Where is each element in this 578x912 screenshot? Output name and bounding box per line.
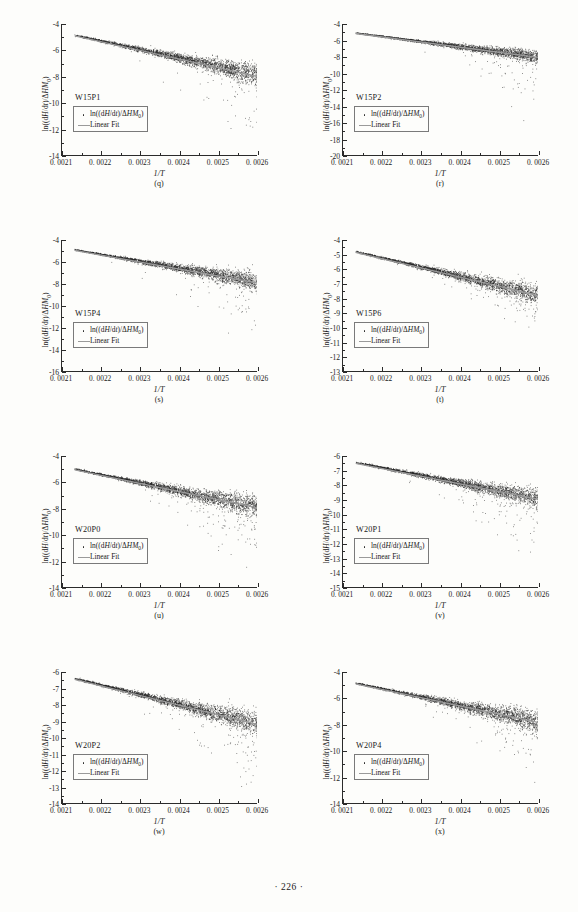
x-tick-label: 0. 0024 [449,374,471,383]
dot-marker-icon [77,326,90,335]
line-marker-icon [77,552,90,561]
x-tick-label: 0. 0022 [89,158,111,167]
panel-letter: (w) [61,827,257,836]
y-tick-label: -6 [53,258,59,267]
legend-label-scatter: ln((dH/dt)/ΔHM0) [371,757,424,768]
x-tick-label: 0. 0021 [50,590,72,599]
legend-label-fit: Linear Fit [90,120,119,129]
legend-label-scatter: ln((dH/dt)/ΔHM0) [371,325,424,336]
linear-fit-line [75,679,257,724]
y-tick-label: -4 [53,452,59,461]
y-tick-labels: -6-7-8-9-10-11-12-13-14-15 [314,456,340,588]
legend-label-fit: Linear Fit [371,336,400,345]
sample-label: W15P4 [75,309,101,318]
data-layer [342,456,538,588]
x-tick-label: 0. 0022 [89,590,111,599]
y-tick-label: -4 [53,236,59,245]
data-layer [61,456,257,588]
sample-label: W20P2 [75,741,101,750]
y-major-tick [343,588,347,589]
y-tick-labels: -4-6-8-10-12-14-16 [33,240,59,372]
x-tick-label: 0. 0021 [50,158,72,167]
y-major-tick [343,372,347,373]
y-tick-label: -4 [334,236,340,245]
panel-letter: (v) [342,611,538,620]
legend-label-fit: Linear Fit [90,768,119,777]
y-tick-label: -12 [49,767,59,776]
x-tick-label: 0. 0025 [207,806,229,815]
x-major-tick [258,799,259,803]
plot-area: ln((dH/dt)/ΔHM0)-6-7-8-9-10-11-12-13-14W… [21,666,276,838]
legend: ln((dH/dt)/ΔHM0)Linear Fit [354,754,429,780]
x-tick-label: 0. 0025 [488,158,510,167]
legend-item-fit: Linear Fit [358,768,424,777]
y-tick-label: -4 [53,20,59,29]
y-tick-label: -10 [49,734,59,743]
legend-label-fit: Linear Fit [371,768,400,777]
line-marker-icon [358,336,371,345]
x-tick-label: 0. 0023 [128,158,150,167]
legend-label-fit: Linear Fit [371,552,400,561]
legend-label-scatter: ln((dH/dt)/ΔHM0) [90,541,143,552]
legend: ln((dH/dt)/ΔHM0)Linear Fit [73,538,148,564]
x-tick-label: 0. 0025 [207,158,229,167]
y-tick-label: -5 [334,250,340,259]
x-tick-label: 0. 0022 [370,590,392,599]
x-tick-label: 0. 0023 [128,806,150,815]
legend-label-scatter: ln((dH/dt)/ΔHM0) [371,109,424,120]
y-tick-label: -14 [330,102,340,111]
panel-letter: (s) [61,395,257,404]
x-axis-label: 1/T [61,169,257,178]
y-tick-label: -7 [53,684,59,693]
legend-item-scatter: ln((dH/dt)/ΔHM0) [77,325,143,336]
sample-label: W15P6 [356,309,382,318]
plot-area: ln((dH/dt)/ΔHM0)-4-6-8-10-12-14W15P1ln((… [21,18,276,190]
plot-area: ln((dH/dt)/ΔHM0)-6-7-8-9-10-11-12-13-14-… [302,450,557,622]
y-tick-label: -12 [330,773,340,782]
line-marker-icon [358,552,371,561]
y-tick-label: -14 [49,346,59,355]
line-marker-icon [77,336,90,345]
x-major-tick [539,151,540,155]
y-tick-label: -13 [49,783,59,792]
data-layer [342,24,538,156]
y-major-tick [343,804,347,805]
dot-marker-icon [77,542,90,551]
x-tick-label: 0. 0026 [527,806,549,815]
x-major-tick [258,367,259,371]
sample-label: W20P4 [356,741,382,750]
y-tick-labels: -4-6-8-10-12-14 [314,672,340,804]
y-tick-label: -8 [53,280,59,289]
x-tick-label: 0. 0025 [207,590,229,599]
legend-item-scatter: ln((dH/dt)/ΔHM0) [358,541,424,552]
legend: ln((dH/dt)/ΔHM0)Linear Fit [73,106,148,132]
y-tick-labels: -6-7-8-9-10-11-12-13-14 [33,672,59,804]
chart-panel: ln((dH/dt)/ΔHM0)-4-5-6-7-8-9-10-11-12-13… [289,234,570,450]
x-tick-label: 0. 0025 [207,374,229,383]
x-major-tick [539,583,540,587]
panel-letter: (u) [61,611,257,620]
y-tick-label: -11 [330,525,340,534]
y-tick-label: -16 [330,119,340,128]
y-tick-label: -18 [330,135,340,144]
book-page: ln((dH/dt)/ΔHM0)-4-6-8-10-12-14W15P1ln((… [0,0,578,912]
x-major-tick [258,151,259,155]
sample-label: W20P0 [75,525,101,534]
y-tick-label: -6 [53,668,59,677]
y-major-tick [343,156,347,157]
y-tick-label: -8 [334,720,340,729]
dot-marker-icon [358,542,371,551]
legend-label-fit: Linear Fit [90,552,119,561]
y-major-tick [62,156,66,157]
legend-label-scatter: ln((dH/dt)/ΔHM0) [90,757,143,768]
legend-label-scatter: ln((dH/dt)/ΔHM0) [90,109,143,120]
data-layer [61,24,257,156]
y-tick-label: -11 [49,750,59,759]
y-major-tick [62,804,66,805]
data-layer [61,672,257,804]
x-tick-label: 0. 0026 [246,374,268,383]
x-tick-label: 0. 0024 [449,158,471,167]
linear-fit-line [356,33,538,57]
legend-item-fit: Linear Fit [77,120,143,129]
x-tick-label: 0. 0024 [168,590,190,599]
